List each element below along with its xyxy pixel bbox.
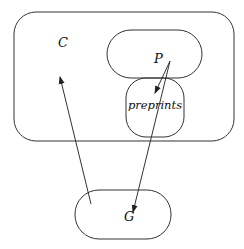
diagram-canvas: C P preprints G: [0, 0, 244, 249]
node-p-label: P: [153, 51, 163, 66]
node-c-label: C: [58, 35, 68, 50]
node-preprints-label: preprints: [128, 98, 182, 112]
